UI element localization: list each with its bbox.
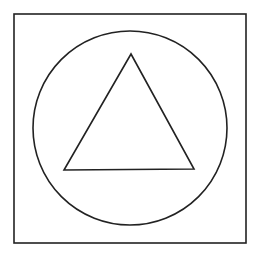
diagram-canvas <box>0 0 260 259</box>
outer-square <box>14 14 246 243</box>
triangle <box>64 54 194 170</box>
circle <box>33 31 227 225</box>
